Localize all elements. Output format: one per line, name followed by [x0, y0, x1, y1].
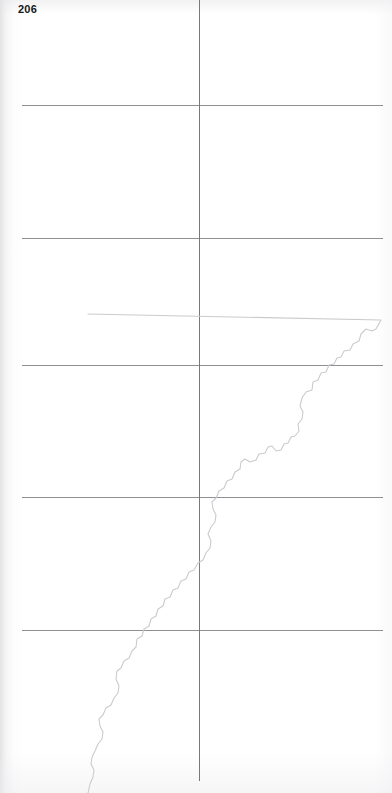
map-features — [88, 314, 381, 793]
page-number: 206 — [18, 4, 37, 15]
graticule-horizontal-lines — [22, 106, 383, 631]
scanned-page: 206 — [0, 0, 392, 793]
map-graticule — [0, 0, 392, 793]
meandering-boundary-path — [88, 314, 381, 793]
